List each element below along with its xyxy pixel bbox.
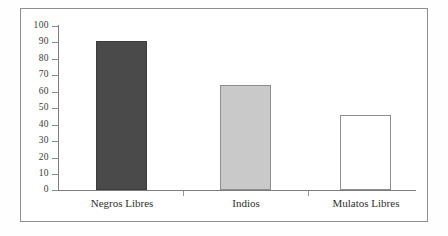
y-axis-tick-label: 10 [9,169,49,178]
y-axis-tick-label: 100 [9,21,49,30]
y-axis-tick [52,42,58,43]
y-axis-tick [52,190,58,191]
x-axis-category-label-negros-libres: Negros Libres [61,197,183,209]
y-axis-tick-label: 40 [9,120,49,129]
y-axis-tick [52,141,58,142]
y-axis-tick [52,92,58,93]
y-axis-tick-label: 30 [9,136,49,145]
y-axis-tick [52,108,58,109]
y-axis-tick [52,158,58,159]
x-axis-category-label-indios: Indios [185,197,307,209]
y-axis-tick-label: 80 [9,54,49,63]
bar-negros-libres [96,41,147,190]
x-axis-line [58,190,416,191]
x-axis-tick [183,191,184,196]
y-axis-tick-label: 0 [9,185,49,194]
y-axis-tick-label: 90 [9,37,49,46]
x-axis-category-label-mulatos-libres: Mulatos Libres [305,197,427,209]
bar-mulatos-libres [340,115,391,190]
y-axis-tick [52,174,58,175]
y-axis-tick [52,59,58,60]
plot-area: 100 90 80 70 60 50 40 30 20 10 0 Negros … [0,0,448,236]
bar-indios [220,85,271,190]
y-axis-tick-label: 50 [9,103,49,112]
y-axis-tick [52,75,58,76]
y-axis-tick-label: 70 [9,70,49,79]
y-axis-tick-label: 20 [9,153,49,162]
figure-container: 100 90 80 70 60 50 40 30 20 10 0 Negros … [0,0,448,236]
y-axis-line [58,25,59,191]
y-axis-tick [52,26,58,27]
x-axis-tick [308,191,309,196]
y-axis-tick-label: 60 [9,87,49,96]
y-axis-tick [52,125,58,126]
